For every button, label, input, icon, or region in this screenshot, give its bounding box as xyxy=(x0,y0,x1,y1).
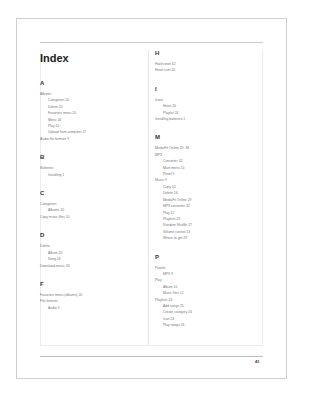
section-letter: H xyxy=(155,50,260,57)
index-left-column: Index AAlbumsCategories 20Delete 20Favor… xyxy=(40,50,145,323)
page-number: 41 xyxy=(255,359,259,364)
section-letter: I xyxy=(155,86,260,93)
top-rule xyxy=(40,42,263,43)
index-subentry: Play songs 26 xyxy=(155,322,260,328)
index-entry: Heart icon 20 xyxy=(155,67,260,73)
index-section-c: CCategoriesAlbums 20Copy music files 10 xyxy=(40,190,145,220)
index-subentry: Installing 1 xyxy=(40,172,145,178)
index-subentry: Where to get 29 xyxy=(155,235,260,241)
section-letter: D xyxy=(40,232,145,239)
index-entry: Download music 33 xyxy=(40,263,145,269)
index-right-column: HHard reset 42Heart icon 20IIconsHeart 2… xyxy=(155,50,260,341)
index-section-p: PPanelsMP3 9PlayAlbum 10Music files 12Pl… xyxy=(155,254,260,329)
page-title: Index xyxy=(40,52,145,64)
section-letter: M xyxy=(155,134,260,141)
index-entry: Audio file formats 9 xyxy=(40,136,145,142)
section-letter: A xyxy=(40,80,145,87)
index-subentry: Audio 9 xyxy=(40,305,145,311)
section-letter: P xyxy=(155,254,260,261)
section-letter: B xyxy=(40,154,145,161)
section-letter: C xyxy=(40,190,145,197)
bottom-rule xyxy=(40,356,263,357)
index-section-d: DDeleteAlbum 20Song 16Download music 33 xyxy=(40,232,145,269)
index-section-b: BBatteriesInstalling 1 xyxy=(40,154,145,178)
index-section-m: MMediaFit Online 29, 38MP3Converter 32Ma… xyxy=(155,134,260,241)
section-letter: F xyxy=(40,281,145,288)
index-entry: Copy music files 10 xyxy=(40,214,145,220)
index-entry: Installing batteries 1 xyxy=(155,116,260,122)
index-section-f: FFavorites menu (albums) 20File formatsA… xyxy=(40,281,145,311)
index-section-a: AAlbumsCategories 20Delete 20Favorites m… xyxy=(40,80,145,142)
column-divider xyxy=(148,50,149,346)
index-section-h: HHard reset 42Heart icon 20 xyxy=(155,50,260,74)
index-section-i: IIconsHeart 20Playlist 24Installing batt… xyxy=(155,86,260,123)
